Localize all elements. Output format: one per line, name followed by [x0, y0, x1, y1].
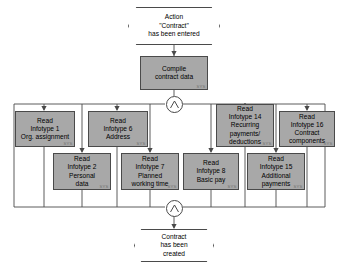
it6-line-2: Infotype 6 [104, 125, 133, 133]
it8-sysmark: SYS [228, 184, 237, 189]
it7-line-3: Planned [138, 172, 162, 180]
it1-sysmark: SYS [64, 141, 73, 146]
function-compile-contract-data[interactable]: Compile contract data SYS [140, 56, 208, 90]
it6-sysmark: SYS [137, 141, 146, 146]
it14-line-3: Recurring [231, 121, 260, 129]
it2-sysmark: SYS [100, 184, 109, 189]
it14-sysmark: SYS [263, 141, 272, 146]
start-event-contract-entered[interactable]: Action "Contract" has been entered [128, 7, 220, 45]
it15-line-3: Additional [262, 172, 291, 180]
function-read-infotype-1[interactable]: Read Infotype 1 Org. assignment SYS [15, 111, 75, 147]
it14-line-1: Read [237, 105, 253, 113]
function-read-infotype-8[interactable]: Read Infotype 8 Basic pay SYS [183, 153, 239, 190]
it8-line-3: Basic pay [197, 176, 226, 184]
it14-line-2: Infotype 14 [229, 113, 262, 121]
it6-line-3: Address [106, 133, 130, 141]
it7-line-2: Infotype 7 [136, 163, 165, 171]
arrowhead-to-end-event [171, 224, 176, 229]
it7-line-4: working time [131, 180, 168, 188]
and-join-icon [167, 201, 182, 216]
it7-sysmark: SYS [168, 184, 177, 189]
function-read-infotype-15[interactable]: Read Infotype 15 Additional payments SYS [247, 153, 305, 190]
end-event-contract-created[interactable]: Contract has been created [134, 229, 214, 262]
and-split-icon [167, 97, 182, 112]
and-join-connector[interactable] [166, 200, 183, 217]
it16-line-1: Read [299, 113, 315, 121]
and-split-connector[interactable] [166, 96, 183, 113]
it8-line-2: Infotype 8 [197, 167, 226, 175]
function-read-infotype-16[interactable]: Read Infotype 16 Contract components SYS [279, 111, 335, 147]
it8-line-1: Read [203, 159, 219, 167]
it7-line-1: Read [142, 155, 158, 163]
start-event-line-3: has been entered [148, 30, 199, 38]
it15-line-2: Infotype 15 [260, 163, 293, 171]
it2-line-4: data [76, 180, 89, 188]
it15-line-1: Read [268, 155, 284, 163]
it1-line-3: Org. assignment [21, 133, 69, 141]
epc-diagram-canvas: Action "Contract" has been entered Compi… [0, 0, 339, 267]
it15-line-4: payments [262, 180, 291, 188]
function-read-infotype-2[interactable]: Read Infotype 2 Personal data SYS [53, 153, 111, 190]
start-event-line-1: Action [165, 13, 183, 21]
function-read-infotype-14[interactable]: Read Infotype 14 Recurring payments/ ded… [216, 104, 274, 147]
compile-line-2: contract data [155, 73, 193, 81]
function-read-infotype-7[interactable]: Read Infotype 7 Planned working time SYS [121, 153, 179, 190]
end-event-line-3: created [163, 250, 185, 258]
it2-line-1: Read [74, 155, 90, 163]
end-event-line-2: has been [160, 241, 187, 249]
it15-sysmark: SYS [294, 184, 303, 189]
it1-line-2: Infotype 1 [31, 125, 60, 133]
it14-line-5: deductions [229, 138, 261, 146]
it1-line-1: Read [37, 117, 53, 125]
it2-line-2: Infotype 2 [68, 163, 97, 171]
it16-line-2: Infotype 16 [291, 121, 324, 129]
it2-line-3: Personal [69, 172, 95, 180]
it16-line-4: components [289, 137, 325, 145]
end-event-line-1: Contract [162, 233, 187, 241]
it6-line-1: Read [110, 117, 126, 125]
function-read-infotype-6[interactable]: Read Infotype 6 Address SYS [88, 111, 148, 147]
compile-line-1: Compile [162, 65, 186, 73]
compile-sysmark: SYS [197, 84, 206, 89]
it16-sysmark: SYS [324, 141, 333, 146]
it16-line-3: Contract [295, 129, 320, 137]
it14-line-4: payments/ [230, 130, 260, 138]
start-event-line-2: "Contract" [159, 22, 189, 30]
